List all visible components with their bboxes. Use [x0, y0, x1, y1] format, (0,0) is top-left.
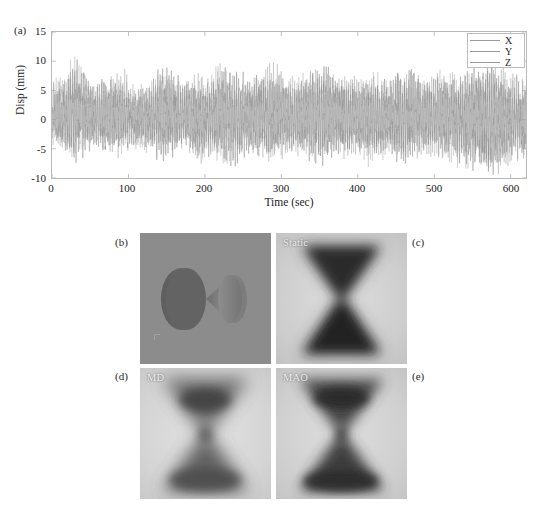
legend-label-z: Z — [505, 58, 521, 68]
x-tick-label: 200 — [179, 182, 229, 194]
legend-swatch-z — [470, 62, 500, 63]
x-tick-label: 0 — [26, 182, 76, 194]
hourglass-projection-mao-svg — [276, 368, 407, 499]
x-tick-label: 100 — [102, 182, 152, 194]
x-tick-label: 600 — [486, 182, 536, 194]
legend-item-x: X — [468, 35, 524, 46]
double-cone-svg — [140, 233, 271, 364]
panel-tag-c: (c) — [412, 236, 424, 248]
panel-tag-d: (d) — [115, 370, 128, 382]
x-tick-label: 300 — [256, 182, 306, 194]
y-tick-label: 15 — [2, 25, 46, 37]
chart-legend: X Y Z — [467, 33, 525, 68]
timeseries-panel: (a) 15 10 5 0 -5 -10 0 100 200 300 400 5… — [0, 0, 549, 215]
legend-label-x: X — [505, 36, 521, 46]
y-tick-label: -5 — [2, 143, 46, 155]
panel-d-md-image: MD — [140, 368, 271, 499]
x-tick-label: 400 — [332, 182, 382, 194]
panel-c-static-image: Static — [276, 233, 407, 364]
legend-item-y: Y — [468, 46, 524, 57]
panel-b-cone-render — [140, 233, 271, 364]
panel-e-mao-image: MAO — [276, 368, 407, 499]
y-axis-label: Disp (mm) — [14, 42, 26, 138]
image-panel-grid: Static — [140, 233, 410, 499]
hourglass-projection-static-svg — [276, 233, 407, 364]
x-axis-label: Time (sec) — [0, 196, 549, 208]
legend-item-z: Z — [468, 57, 524, 68]
x-tick-label: 500 — [409, 182, 459, 194]
hourglass-projection-md-svg — [140, 368, 271, 499]
legend-swatch-y — [470, 51, 500, 52]
legend-label-y: Y — [505, 47, 521, 57]
panel-tag-b: (b) — [115, 236, 128, 248]
panel-tag-e: (e) — [412, 370, 424, 382]
legend-swatch-x — [470, 40, 500, 41]
